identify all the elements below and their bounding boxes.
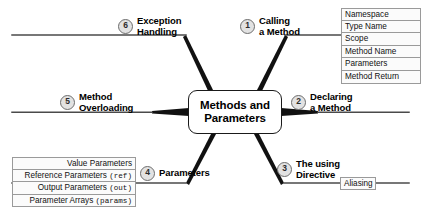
branch-number-5: 5 <box>60 95 75 110</box>
branch-number-1: 1 <box>240 19 255 34</box>
branch-text-1-line2: a Method <box>259 26 300 37</box>
branch-text-5-line1: Method <box>79 91 112 102</box>
branch-number-2: 2 <box>291 95 306 110</box>
list-item[interactable]: Value Parameters <box>12 157 136 170</box>
branch-number-6: 6 <box>118 19 133 34</box>
center-node-line1: Methods and <box>200 99 270 111</box>
branch-text-2-line1: Declaring <box>310 91 352 102</box>
branch-text-6-line1: Exception <box>137 15 182 26</box>
branch-text-4: Parameters <box>159 168 210 179</box>
list-item[interactable]: Scope <box>341 33 421 46</box>
branch-text-6: ExceptionHandling <box>137 16 182 37</box>
center-node-line2: Parameters <box>204 112 266 124</box>
center-node: Methods andParameters <box>188 90 282 134</box>
list-item[interactable]: Type Name <box>341 21 421 34</box>
list-item-code: (out) <box>109 184 132 192</box>
list-item-text: Parameter Arrays <box>30 196 96 205</box>
branch-text-3-line2: Directive <box>296 169 335 180</box>
branch-label-calling-a-method[interactable]: 1 Callinga Method <box>240 16 300 37</box>
branch-text-2: Declaringa Method <box>310 92 352 113</box>
list-item-text: Value Parameters <box>67 159 132 168</box>
center-node-label: Methods andParameters <box>200 99 270 125</box>
list-item[interactable]: Parameters <box>341 58 421 71</box>
branch-spike-1 <box>256 35 288 95</box>
branch-text-6-line2: Handling <box>137 26 177 37</box>
branch-text-5: MethodOverloading <box>79 92 133 113</box>
branch-text-5-line2: Overloading <box>79 102 133 113</box>
list-item[interactable]: Output Parameters (out) <box>12 182 136 195</box>
list-item-code: (params) <box>96 197 132 205</box>
branch-label-parameters[interactable]: 4 Parameters <box>140 166 210 181</box>
branch-text-3-line1: The using <box>296 158 340 169</box>
branch-text-2-line2: a Method <box>310 102 351 113</box>
sublist-item-aliasing[interactable]: Aliasing <box>340 177 376 190</box>
list-item-text: Reference Parameters <box>25 171 110 180</box>
branch-number-3: 3 <box>277 162 292 177</box>
branch-label-using-directive[interactable]: 3 The usingDirective <box>277 159 340 180</box>
branch-label-declaring-a-method[interactable]: 2 Declaringa Method <box>291 92 352 113</box>
branch-spike-6 <box>183 35 214 95</box>
branch-spike-5 <box>152 108 189 116</box>
sublist-parameters: Value Parameters Reference Parameters (r… <box>12 157 136 207</box>
branch-text-1-line1: Calling <box>259 15 290 26</box>
list-item[interactable]: Method Return <box>341 71 421 84</box>
list-item[interactable]: Parameter Arrays (params) <box>12 195 136 208</box>
sublist-calling-a-method: Namespace Type Name Scope Method Name Pa… <box>341 8 421 84</box>
list-item[interactable]: Method Name <box>341 46 421 59</box>
mind-map-diagram: Methods andParameters 6 ExceptionHandlin… <box>0 0 421 220</box>
branch-label-exception-handling[interactable]: 6 ExceptionHandling <box>118 16 182 37</box>
branch-text-3: The usingDirective <box>296 159 340 180</box>
list-item-code: (ref) <box>109 172 132 180</box>
list-item[interactable]: Namespace <box>341 8 421 21</box>
branch-label-method-overloading[interactable]: 5 MethodOverloading <box>60 92 133 113</box>
list-item[interactable]: Reference Parameters (ref) <box>12 170 136 183</box>
list-item-text: Output Parameters <box>38 183 109 192</box>
branch-number-4: 4 <box>140 166 155 181</box>
branch-text-1: Callinga Method <box>259 16 300 37</box>
